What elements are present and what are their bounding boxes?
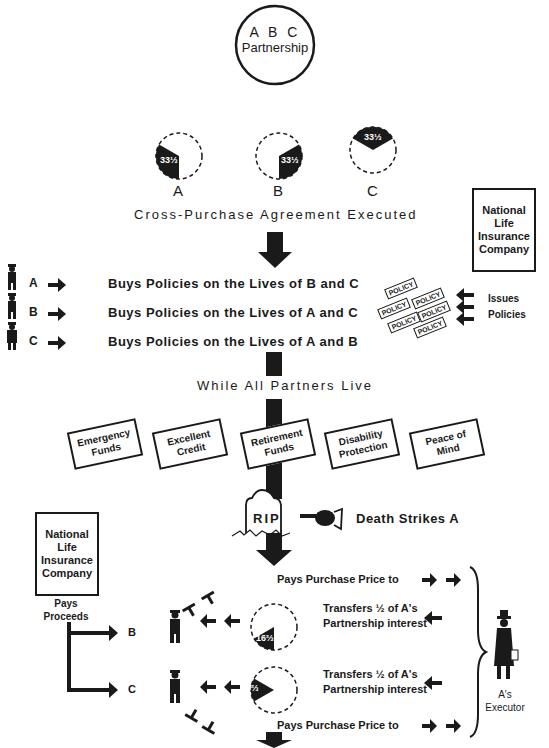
issues-line1: Issues xyxy=(488,291,526,307)
purchase-text-c: Buys Policies on the Lives of A and B xyxy=(108,334,358,349)
share-label-b: B xyxy=(273,182,283,199)
partner-arrows xyxy=(48,278,66,350)
share-value-c: 33⅓ xyxy=(364,132,382,142)
partner-figures-top xyxy=(7,264,17,350)
partner-letter-c: C xyxy=(29,334,38,348)
insurer-line: National xyxy=(478,204,530,217)
insurer-line: Company xyxy=(41,567,93,580)
recipient-c: C xyxy=(128,683,136,695)
tombstone-label: RIP xyxy=(253,511,281,526)
down-arrow-2 xyxy=(256,530,292,566)
partnership-title: A B C xyxy=(236,24,314,40)
transfer-line1: Transfers ½ of A's xyxy=(323,601,427,616)
transfer-pie-b xyxy=(251,604,297,650)
pays-proceeds-label: Pays Proceeds xyxy=(42,597,90,623)
pays-price-bottom: Pays Purchase Price to xyxy=(277,719,399,731)
proceeds-bracket xyxy=(67,622,118,698)
transfer-line2: Partnership interest xyxy=(323,682,427,697)
diagram-graphics xyxy=(0,0,549,748)
death-label: Death Strikes A xyxy=(356,511,459,526)
partnership-label: A B C Partnership xyxy=(236,24,314,56)
agreement-label: Cross-Purchase Agreement Executed xyxy=(134,207,418,222)
recipient-b: B xyxy=(128,626,136,638)
recipient-figures xyxy=(170,610,180,703)
down-arrow-1 xyxy=(258,232,292,268)
share-value-b: 33⅓ xyxy=(281,155,299,165)
issues-line2: Policies xyxy=(488,307,526,323)
executor-line1: A's xyxy=(484,688,526,701)
transfer-text-b: Transfers ½ of A's Partnership interest xyxy=(323,601,427,631)
partner-letter-b: B xyxy=(29,305,38,319)
executor-line2: Executor xyxy=(484,701,526,714)
payment-arrows xyxy=(182,591,219,735)
transfer-value-c: 16⅔ xyxy=(241,683,259,693)
while-live-label: While All Partners Live xyxy=(195,378,375,393)
transfer-value-b: 16⅔ xyxy=(256,633,274,643)
purchase-text-a: Buys Policies on the Lives of B and C xyxy=(108,276,359,291)
pays-proceeds-line2: Proceeds xyxy=(42,610,90,623)
insurer-line: Insurance xyxy=(41,554,93,567)
share-value-a: 33⅓ xyxy=(160,155,178,165)
transfer-line2: Partnership interest xyxy=(323,616,427,631)
purchase-text-b: Buys Policies on the Lives of A and C xyxy=(108,305,358,320)
issues-label: Issues Policies xyxy=(488,291,526,323)
issues-arrows xyxy=(456,288,474,326)
pays-proceeds-line1: Pays xyxy=(42,597,90,610)
insurer-line: Life xyxy=(41,541,93,554)
insurer-line: Life xyxy=(478,217,530,230)
insurer-line: National xyxy=(41,528,93,541)
pointing-hand-icon xyxy=(300,509,342,529)
transfer-text-c: Transfers ½ of A's Partnership interest xyxy=(323,667,427,697)
partnership-subtitle: Partnership xyxy=(236,40,314,56)
transfer-line1: Transfers ½ of A's xyxy=(323,667,427,682)
executor-figure xyxy=(494,610,518,679)
insurer-box-top: National Life Insurance Company xyxy=(472,188,536,272)
insurer-line: Insurance xyxy=(478,230,530,243)
pays-price-top: Pays Purchase Price to xyxy=(277,573,399,585)
insurer-box-bottom: National Life Insurance Company xyxy=(35,512,99,596)
price-right-arrows xyxy=(422,573,461,733)
insurer-line: Company xyxy=(478,243,530,256)
share-label-c: C xyxy=(367,182,378,199)
partner-letter-a: A xyxy=(29,276,38,290)
down-arrow-3 xyxy=(256,732,292,748)
executor-label: A's Executor xyxy=(484,688,526,714)
connector-bar-1 xyxy=(266,352,282,376)
share-label-a: A xyxy=(173,182,183,199)
